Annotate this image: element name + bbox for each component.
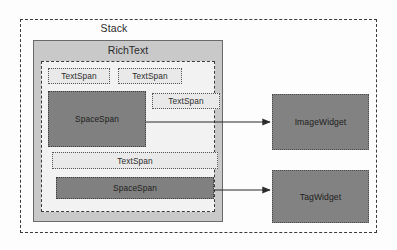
node-label: TextSpan xyxy=(61,71,96,81)
diagram-canvas: Stack RichText TextSpan TextSpan SpaceSp… xyxy=(0,0,397,250)
node-space-span-1[interactable]: SpaceSpan xyxy=(48,91,146,147)
node-label: TextSpan xyxy=(117,156,152,166)
node-label: TagWidget xyxy=(300,192,342,202)
richtext-label: RichText xyxy=(33,44,223,56)
node-label: TextSpan xyxy=(132,71,167,81)
node-text-span-4[interactable]: TextSpan xyxy=(52,152,218,169)
node-text-span-2[interactable]: TextSpan xyxy=(118,68,182,84)
node-text-span-3[interactable]: TextSpan xyxy=(152,93,220,109)
node-label: SpaceSpan xyxy=(113,183,157,193)
node-image-widget[interactable]: ImageWidget xyxy=(272,94,369,150)
node-label: TextSpan xyxy=(168,96,203,106)
node-label: SpaceSpan xyxy=(75,114,119,124)
node-label: ImageWidget xyxy=(295,117,347,127)
node-space-span-2[interactable]: SpaceSpan xyxy=(56,177,214,199)
node-tag-widget[interactable]: TagWidget xyxy=(272,170,369,223)
stack-label: Stack xyxy=(0,22,228,34)
node-text-span-1[interactable]: TextSpan xyxy=(48,68,110,84)
